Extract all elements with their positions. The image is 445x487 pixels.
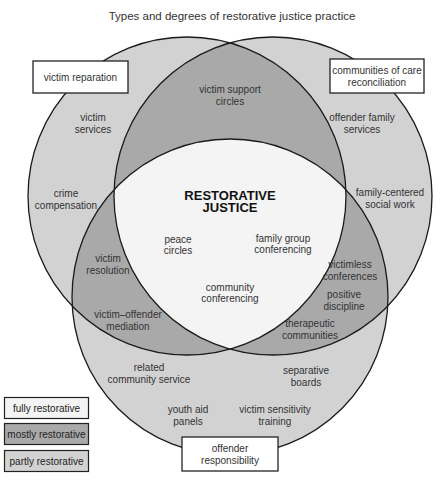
region-label-community-conferencing: community conferencing bbox=[201, 282, 258, 304]
svg-text:separative: separative bbox=[283, 365, 330, 376]
svg-text:training: training bbox=[259, 416, 292, 427]
svg-text:resolution: resolution bbox=[86, 265, 129, 276]
svg-text:therapeutic: therapeutic bbox=[285, 318, 334, 329]
svg-text:offender family: offender family bbox=[329, 112, 394, 123]
svg-text:services: services bbox=[344, 124, 381, 135]
region-label-family-centered-social-work: family-centered social work bbox=[356, 187, 424, 210]
svg-text:compensation: compensation bbox=[35, 200, 97, 211]
svg-text:social work: social work bbox=[365, 199, 415, 210]
svg-text:positive: positive bbox=[327, 289, 361, 300]
region-label-positive-discipline: positive discipline bbox=[323, 289, 365, 312]
svg-text:responsibility: responsibility bbox=[201, 455, 259, 466]
svg-text:victim: victim bbox=[95, 253, 121, 264]
svg-text:panels: panels bbox=[173, 416, 202, 427]
svg-text:mostly restorative: mostly restorative bbox=[7, 429, 86, 440]
svg-text:partly restorative: partly restorative bbox=[10, 456, 84, 467]
svg-text:communities of care: communities of care bbox=[332, 65, 422, 76]
region-label-youth-aid-panels: youth aid panels bbox=[168, 404, 209, 427]
svg-text:victim reparation: victim reparation bbox=[44, 72, 117, 83]
svg-text:conferences: conferences bbox=[323, 271, 377, 282]
svg-text:conferencing: conferencing bbox=[254, 244, 311, 255]
svg-text:JUSTICE: JUSTICE bbox=[203, 200, 258, 215]
svg-text:victim: victim bbox=[80, 112, 106, 123]
region-label-peace-circles: peace circles bbox=[164, 234, 192, 256]
svg-text:peace: peace bbox=[164, 234, 192, 245]
svg-text:offender: offender bbox=[212, 443, 249, 454]
venn-diagram: Types and degrees of restorative justice… bbox=[0, 0, 445, 487]
legend-item-fully-restorative: fully restorative bbox=[5, 398, 89, 419]
legend-item-mostly-restorative: mostly restorative bbox=[5, 424, 89, 445]
region-label-therapeutic-communities: therapeutic communities bbox=[282, 318, 338, 341]
svg-text:reconciliation: reconciliation bbox=[348, 77, 406, 88]
legend-item-partly-restorative: partly restorative bbox=[5, 451, 89, 472]
diagram-title: Types and degrees of restorative justice… bbox=[109, 10, 356, 22]
svg-text:conferencing: conferencing bbox=[201, 293, 258, 304]
svg-text:victimless: victimless bbox=[328, 259, 371, 270]
svg-text:fully restorative: fully restorative bbox=[13, 403, 81, 414]
region-label-family-group-conferencing: family group conferencing bbox=[254, 233, 311, 255]
offender-responsibility-label: offender responsibility bbox=[182, 437, 278, 471]
svg-text:discipline: discipline bbox=[323, 301, 365, 312]
svg-text:community: community bbox=[206, 282, 254, 293]
svg-text:family-centered: family-centered bbox=[356, 187, 424, 198]
svg-text:youth aid: youth aid bbox=[168, 404, 209, 415]
svg-text:victim support: victim support bbox=[199, 84, 261, 95]
svg-text:community service: community service bbox=[108, 374, 191, 385]
svg-text:victim sensitivity: victim sensitivity bbox=[239, 404, 311, 415]
communities-of-care-label: communities of care reconciliation bbox=[330, 59, 424, 93]
svg-text:services: services bbox=[75, 124, 112, 135]
svg-text:related: related bbox=[134, 362, 165, 373]
legend: fully restorative mostly restorative par… bbox=[5, 398, 89, 472]
victim-reparation-label: victim reparation bbox=[33, 61, 128, 93]
svg-text:boards: boards bbox=[291, 377, 322, 388]
svg-text:victim–offender: victim–offender bbox=[94, 309, 162, 320]
region-label-victimless-conferences: victimless conferences bbox=[323, 259, 377, 282]
svg-text:circles: circles bbox=[164, 245, 192, 256]
svg-text:mediation: mediation bbox=[106, 321, 149, 332]
svg-text:crime: crime bbox=[54, 188, 79, 199]
svg-text:communities: communities bbox=[282, 330, 338, 341]
svg-text:circles: circles bbox=[216, 96, 244, 107]
svg-text:family group: family group bbox=[256, 233, 311, 244]
